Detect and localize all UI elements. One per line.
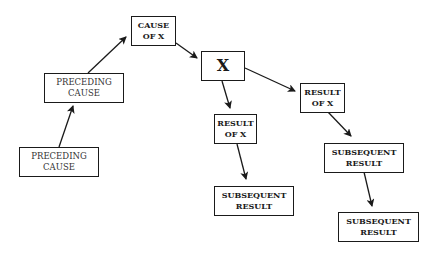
node-cause-of-x: CAUSE OF X: [131, 16, 176, 46]
node-result-of-x-lower: RESULT OF X: [214, 114, 257, 144]
node-label-line: PRECEDING: [56, 77, 111, 88]
node-subsequent-result-bottom: SUBSEQUENT RESULT: [338, 212, 419, 242]
node-label-line: CAUSE: [138, 20, 169, 31]
diagram-canvas: PRECEDING CAUSE PRECEDING CAUSE CAUSE OF…: [0, 0, 437, 256]
node-label-line: CAUSE: [68, 88, 100, 99]
node-label-line: RESULT: [360, 227, 396, 238]
node-subsequent-result-mid: SUBSEQUENT RESULT: [324, 143, 404, 173]
node-label-line: SUBSEQUENT: [346, 216, 411, 227]
arrow-preceding1-to-preceding2: [59, 106, 73, 147]
node-preceding-cause-lower: PRECEDING CAUSE: [19, 147, 99, 177]
node-preceding-cause-upper: PRECEDING CAUSE: [44, 73, 124, 103]
arrow-x-to-result2: [245, 68, 295, 91]
node-label-line: X: [217, 57, 229, 75]
node-label-line: OF X: [312, 98, 334, 109]
node-label-line: RESULT: [346, 158, 382, 169]
node-label-line: SUBSEQUENT: [332, 147, 397, 158]
node-result-of-x-right: RESULT OF X: [300, 83, 345, 113]
arrow-subsequent2-to-subsequent3: [364, 172, 372, 206]
node-label-line: OF X: [143, 31, 165, 42]
node-subsequent-result-lower: SUBSEQUENT RESULT: [214, 186, 294, 216]
arrow-result1-to-subsequent1: [237, 144, 246, 179]
node-label-line: PRECEDING: [31, 151, 86, 162]
arrow-x-to-result1: [222, 81, 230, 108]
arrow-result2-to-subsequent2: [328, 112, 351, 136]
node-label-line: RESULT: [236, 201, 272, 212]
arrow-preceding2-to-cause: [88, 37, 126, 73]
node-label-line: OF X: [225, 129, 247, 140]
node-x: X: [201, 51, 245, 81]
node-label-line: RESULT: [304, 87, 340, 98]
node-label-line: SUBSEQUENT: [222, 190, 287, 201]
node-label-line: RESULT: [217, 118, 253, 129]
node-label-line: CAUSE: [43, 162, 75, 173]
arrow-cause-to-x: [176, 43, 197, 58]
